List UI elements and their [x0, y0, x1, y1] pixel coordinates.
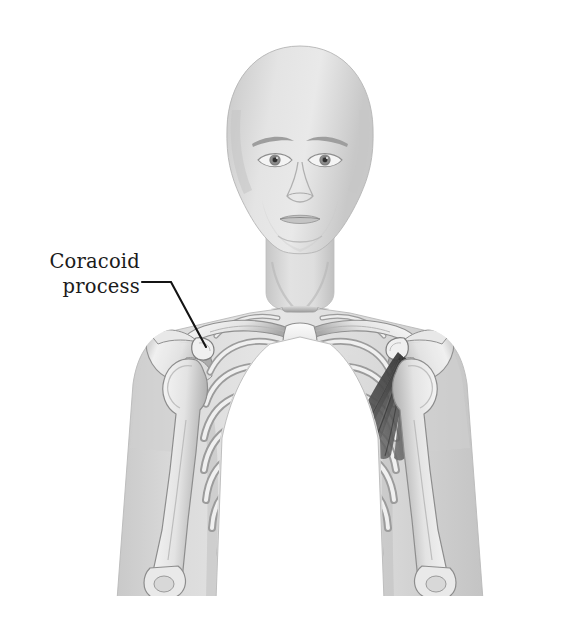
sternum [283, 323, 317, 520]
head [227, 46, 373, 254]
mouth [280, 215, 320, 223]
label-line-1: Coracoid [18, 249, 140, 274]
anatomy-illustration [0, 0, 565, 627]
label-coracoid-process: Coracoid process [18, 249, 140, 299]
label-line-2: process [18, 274, 140, 299]
lumbar-spine [281, 524, 319, 594]
